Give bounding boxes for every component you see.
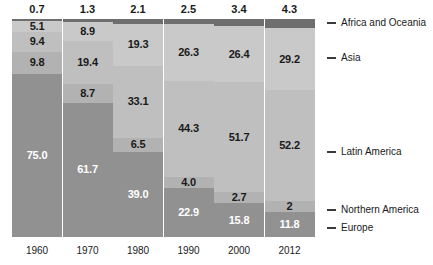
bar-segment-latin-america[interactable]: 19.4	[63, 41, 113, 83]
segment-value-label: 19.4	[77, 57, 98, 68]
stacked-bar[interactable]: 19.333.16.539.0	[113, 19, 163, 237]
segment-value-label: 44.3	[178, 123, 199, 134]
bar-segment-asia[interactable]: 26.3	[164, 24, 214, 81]
segment-value-label: 9.8	[30, 57, 45, 68]
bar-top-value-label: 4.3	[265, 4, 315, 15]
segment-value-label: 29.2	[279, 54, 300, 65]
bar-segment-africa-and-oceania[interactable]	[265, 19, 315, 28]
x-axis-label-1980: 1980	[113, 246, 163, 256]
bar-segment-asia[interactable]: 19.3	[113, 24, 163, 66]
bar-segment-europe[interactable]: 15.8	[214, 203, 264, 237]
legend-label: Europe	[341, 223, 373, 233]
segment-value-label: 33.1	[128, 96, 149, 107]
plot-area: 5.19.49.875.00.719608.919.48.761.71.3197…	[0, 0, 320, 265]
bar-segment-europe[interactable]: 39.0	[113, 152, 163, 237]
segment-value-label: 51.7	[229, 132, 250, 143]
bar-segment-europe[interactable]: 75.0	[12, 74, 62, 238]
segment-value-label: 61.7	[77, 164, 98, 175]
bar-segment-northern-america[interactable]: 4.0	[164, 177, 214, 188]
bar-top-value-label: 1.3	[63, 4, 113, 15]
legend-label: Northern America	[341, 205, 419, 215]
bar-group: 26.344.34.022.9	[164, 19, 214, 237]
legend-leader-line	[327, 227, 336, 229]
segment-value-label: 9.4	[30, 36, 45, 47]
legend-leader-line	[327, 22, 336, 24]
bar-top-value-label: 0.7	[12, 4, 62, 15]
bar-segment-europe[interactable]: 22.9	[164, 188, 214, 237]
bar-segment-asia[interactable]: 29.2	[265, 28, 315, 90]
x-axis-label-1970: 1970	[63, 246, 113, 256]
x-axis-label-1960: 1960	[12, 246, 62, 256]
stacked-bar-chart: 5.19.49.875.00.719608.919.48.761.71.3197…	[0, 0, 433, 265]
bar-group: 26.451.72.715.8	[214, 19, 264, 237]
segment-value-label: 19.3	[128, 39, 149, 50]
bar-group: 19.333.16.539.0	[113, 19, 163, 237]
bar-segment-latin-america[interactable]: 44.3	[164, 81, 214, 177]
bar-group: 29.252.2211.8	[265, 19, 315, 237]
legend-label: Asia	[341, 53, 360, 63]
bar-top-value-label: 2.1	[113, 4, 163, 15]
segment-value-label: 5.1	[30, 21, 45, 32]
segment-value-label: 2.7	[232, 192, 247, 203]
segment-value-label: 52.2	[279, 140, 300, 151]
legend-item-asia[interactable]: Asia	[327, 53, 360, 63]
legend-item-northern-america[interactable]: Northern America	[327, 205, 419, 215]
segment-value-label: 6.5	[131, 139, 146, 150]
segment-value-label: 15.8	[229, 215, 250, 226]
bar-top-value-label: 3.4	[214, 4, 264, 15]
x-axis-label-2012: 2012	[265, 246, 315, 256]
bar-segment-northern-america[interactable]: 6.5	[113, 138, 163, 152]
legend-item-europe[interactable]: Europe	[327, 223, 373, 233]
bar-segment-europe[interactable]: 61.7	[63, 103, 113, 238]
segment-value-label: 4.0	[181, 177, 196, 188]
segment-value-label: 2	[287, 201, 293, 212]
bar-segment-northern-america[interactable]: 9.8	[12, 52, 62, 73]
x-axis-label-2000: 2000	[214, 246, 264, 256]
x-axis-label-1990: 1990	[164, 246, 214, 256]
bar-segment-asia[interactable]: 26.4	[214, 26, 264, 82]
segment-value-label: 75.0	[27, 150, 48, 161]
bar-segment-northern-america[interactable]: 2.7	[214, 192, 264, 203]
bar-segment-asia[interactable]: 8.9	[63, 22, 113, 41]
legend-item-latin-america[interactable]: Latin America	[327, 147, 402, 157]
bar-segment-latin-america[interactable]: 51.7	[214, 82, 264, 192]
legend-label: Africa and Oceania	[341, 18, 426, 28]
bar-segment-latin-america[interactable]: 33.1	[113, 66, 163, 138]
bar-segment-asia[interactable]: 5.1	[12, 21, 62, 32]
bar-segment-northern-america[interactable]: 2	[265, 201, 315, 212]
segment-value-label: 39.0	[128, 189, 149, 200]
bar-segment-europe[interactable]: 11.8	[265, 212, 315, 237]
legend-leader-line	[327, 151, 336, 153]
segment-value-label: 26.4	[229, 49, 250, 60]
segment-value-label: 22.9	[178, 207, 199, 218]
bar-segment-latin-america[interactable]: 52.2	[265, 90, 315, 201]
stacked-bar[interactable]: 5.19.49.875.0	[12, 19, 62, 237]
bar-top-value-label: 2.5	[164, 4, 214, 15]
stacked-bar[interactable]: 26.451.72.715.8	[214, 19, 264, 237]
segment-value-label: 8.9	[80, 26, 95, 37]
legend-leader-line	[327, 209, 336, 211]
bar-group: 8.919.48.761.7	[63, 19, 113, 237]
stacked-bar[interactable]: 26.344.34.022.9	[164, 19, 214, 237]
segment-value-label: 8.7	[80, 88, 95, 99]
bar-segment-africa-and-oceania[interactable]	[214, 19, 264, 26]
bar-segment-northern-america[interactable]: 8.7	[63, 84, 113, 103]
bar-segment-latin-america[interactable]: 9.4	[12, 32, 62, 52]
bar-group: 5.19.49.875.0	[12, 19, 62, 237]
segment-value-label: 26.3	[178, 47, 199, 58]
stacked-bar[interactable]: 29.252.2211.8	[265, 19, 315, 237]
segment-value-label: 11.8	[279, 219, 299, 230]
legend-label: Latin America	[341, 147, 402, 157]
stacked-bar[interactable]: 8.919.48.761.7	[63, 19, 113, 237]
legend-item-africa-and-oceania[interactable]: Africa and Oceania	[327, 18, 426, 28]
legend-leader-line	[327, 57, 336, 59]
